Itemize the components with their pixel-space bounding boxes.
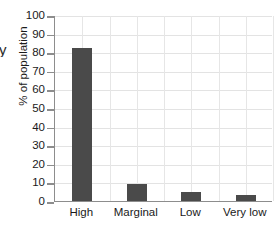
y-tick-label: 0 xyxy=(39,195,45,208)
y-tick-label: 70 xyxy=(32,65,45,78)
y-tick-mark xyxy=(47,165,54,167)
bar-high xyxy=(72,48,92,201)
plot-area xyxy=(54,16,272,202)
y-tick-mark xyxy=(47,90,54,92)
y-tick-mark xyxy=(47,16,54,18)
y-tick-label: 20 xyxy=(32,158,45,171)
y-tick-mark xyxy=(47,53,54,55)
y-tick-mark xyxy=(47,146,54,148)
x-axis-labels: HighMarginalLowVery low xyxy=(54,205,272,227)
x-axis-label-very-low: Very low xyxy=(223,205,266,219)
y-tick-mark xyxy=(47,72,54,74)
bar-series xyxy=(55,16,272,201)
bar-low xyxy=(181,192,201,201)
y-tick-label: 40 xyxy=(32,121,45,134)
y-tick-label: 80 xyxy=(32,46,45,59)
y-tick-label: 100 xyxy=(26,9,45,22)
y-tick-label: 10 xyxy=(32,176,45,189)
y-tick-label: 30 xyxy=(32,139,45,152)
bar-very-low xyxy=(236,195,256,202)
y-tick-mark xyxy=(47,35,54,37)
bar-chart: y % of population 0102030405060708090100… xyxy=(0,0,279,231)
x-axis-label-high: High xyxy=(69,205,93,219)
y-axis-ticks: 0102030405060708090100 xyxy=(0,16,54,202)
bar-marginal xyxy=(127,184,147,201)
y-tick-mark xyxy=(47,109,54,111)
y-tick-label: 50 xyxy=(32,102,45,115)
y-tick-mark xyxy=(47,202,54,204)
y-tick-label: 90 xyxy=(32,28,45,41)
y-tick-mark xyxy=(47,183,54,185)
x-axis-label-low: Low xyxy=(180,205,201,219)
x-axis-label-marginal: Marginal xyxy=(114,205,158,219)
y-tick-label: 60 xyxy=(32,83,45,96)
y-tick-mark xyxy=(47,128,54,130)
